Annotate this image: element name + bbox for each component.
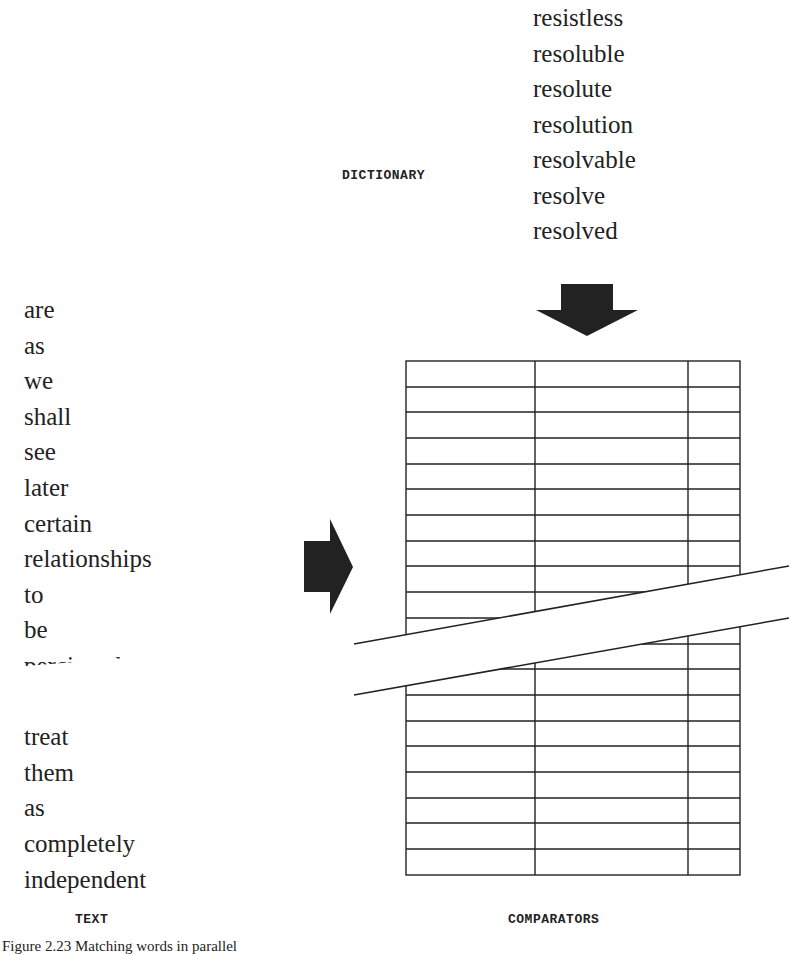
- down-arrow-icon: [536, 284, 638, 336]
- right-arrow-icon: [304, 519, 353, 614]
- figure-caption: Figure 2.23 Matching words in parallel: [2, 938, 237, 955]
- comparators-label: COMPARATORS: [508, 912, 599, 927]
- text-break-band: [0, 640, 354, 724]
- text-label: TEXT: [75, 912, 108, 927]
- break-band: [354, 566, 789, 695]
